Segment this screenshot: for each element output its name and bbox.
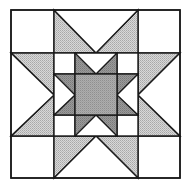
outer-goose-top <box>54 10 138 53</box>
outer-goose-left <box>11 53 54 136</box>
inner-corner-tr <box>117 53 138 74</box>
corner-square-tr <box>138 10 180 53</box>
corner-square-br <box>138 136 180 178</box>
center-square <box>75 74 117 115</box>
inner-corner-bl <box>54 115 75 136</box>
inner-goose-bottom <box>75 115 117 136</box>
inner-goose-right <box>117 74 138 115</box>
outer-goose-bottom <box>54 136 138 178</box>
inner-goose-left <box>54 74 75 115</box>
inner-goose-top <box>75 53 117 74</box>
corner-square-tl <box>11 10 54 53</box>
outer-goose-right <box>138 53 180 136</box>
inner-corner-tl <box>54 53 75 74</box>
inner-corner-br <box>117 115 138 136</box>
corner-square-bl <box>11 136 54 178</box>
quilt-block-diagram <box>0 0 189 193</box>
inner-star <box>54 53 138 136</box>
